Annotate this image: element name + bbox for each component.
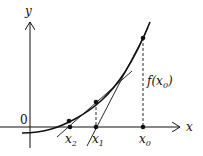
origin-label: 0 — [20, 113, 28, 127]
point-curve-x0 — [141, 36, 146, 41]
x0-label: x0 — [139, 132, 151, 148]
newton-method-diagram: y x 0 x2 x1 x0 f(x0) — [0, 0, 203, 156]
x2-label: x2 — [65, 132, 77, 148]
point-curve-x2 — [67, 119, 72, 124]
function-curve — [22, 22, 150, 133]
point-axis-x1 — [94, 125, 99, 130]
y-axis-label: y — [24, 4, 32, 18]
point-curve-x1 — [94, 100, 99, 105]
point-axis-x0 — [141, 125, 146, 130]
f-x0-label: f(x0) — [146, 74, 173, 90]
x1-label: x1 — [92, 132, 104, 148]
x-axis-label: x — [186, 120, 193, 134]
point-axis-x2 — [68, 125, 73, 130]
